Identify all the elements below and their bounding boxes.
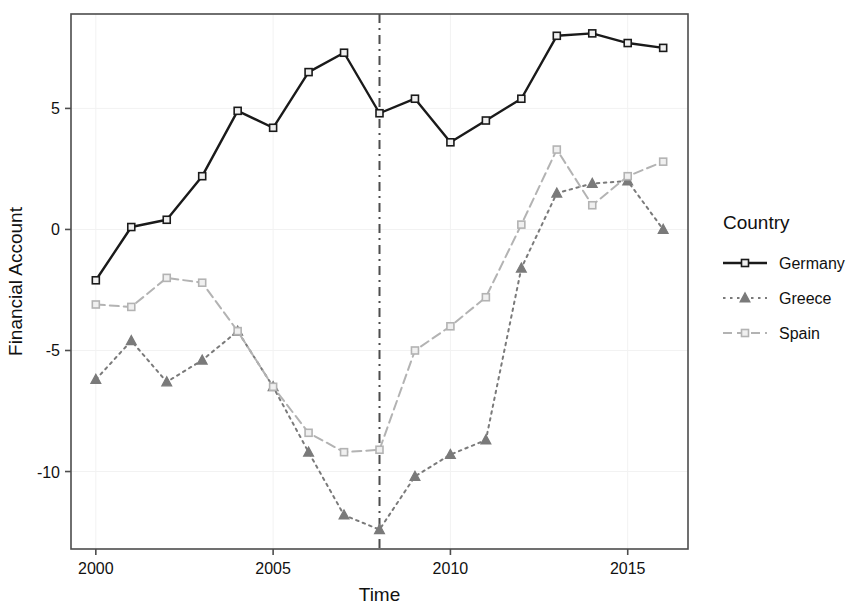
- legend-label: Greece: [779, 290, 832, 307]
- y-axis: 50-5-10: [37, 100, 71, 480]
- x-tick-label: 2010: [433, 560, 469, 577]
- y-tick-label: 5: [51, 100, 60, 117]
- y-axis-title: Financial Account: [5, 206, 26, 356]
- legend-label: Spain: [779, 325, 820, 342]
- series-spain: [92, 146, 666, 456]
- x-tick-label: 2015: [610, 560, 646, 577]
- legend-entry-spain[interactable]: Spain: [723, 325, 820, 342]
- y-tick-label: -10: [37, 464, 60, 481]
- x-tick-label: 2005: [255, 560, 291, 577]
- y-tick-label: -5: [46, 342, 60, 359]
- legend: Country GermanyGreeceSpain: [723, 212, 845, 342]
- x-tick-label: 2000: [78, 560, 114, 577]
- legend-label: Germany: [779, 255, 845, 272]
- chart-canvas: 2000200520102015 50-5-10 Time Financial …: [0, 0, 863, 610]
- y-tick-label: 0: [51, 221, 60, 238]
- x-axis-title: Time: [359, 584, 401, 605]
- financial-account-line-chart: 2000200520102015 50-5-10 Time Financial …: [0, 0, 863, 610]
- legend-title: Country: [723, 212, 790, 233]
- legend-entry-germany[interactable]: Germany: [723, 255, 845, 272]
- x-axis: 2000200520102015: [78, 549, 646, 577]
- legend-entry-greece[interactable]: Greece: [723, 290, 832, 307]
